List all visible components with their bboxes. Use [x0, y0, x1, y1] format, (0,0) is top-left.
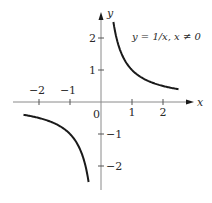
y-axis-label: y	[106, 7, 114, 20]
y-tick-label: 2	[89, 32, 96, 45]
function-annotation: y = 1/x, x ≠ 0	[131, 31, 201, 42]
function-plot: −2−112 21−1−2 x y 0 y = 1/x, x ≠ 0	[0, 0, 212, 203]
x-tick-label: −2	[29, 84, 45, 97]
y-tick-label: 1	[89, 64, 96, 77]
y-tick-label: −1	[106, 128, 122, 141]
y-axis-arrow-icon	[99, 12, 104, 20]
origin-label: 0	[93, 108, 100, 121]
x-tick-label: −1	[60, 84, 76, 97]
x-tick-label: 2	[160, 106, 167, 119]
curve-negative-branch	[24, 115, 89, 182]
x-tick-label: 1	[129, 106, 136, 119]
x-axis-arrow-icon	[186, 100, 194, 105]
y-tick-label: −2	[106, 160, 122, 173]
x-axis-label: x	[197, 96, 204, 109]
